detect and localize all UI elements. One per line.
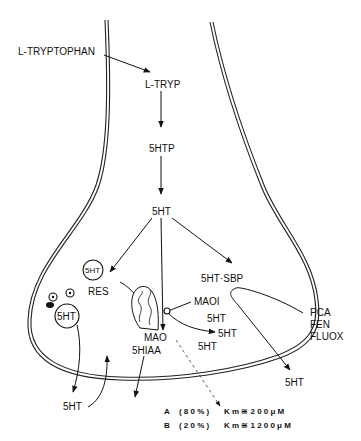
label-5ht-sbp: 5HT·SBP [201,273,244,284]
label-fluox: FLUOX [310,331,344,342]
label-fen: FEN [310,319,330,330]
label-l-tryptophan: L-TRYPTOPHAN [18,46,95,57]
label-vesicle-small: 5HT [85,266,100,275]
reuptake-arrow [88,356,107,407]
legend-key-b: B [164,421,172,430]
serotonin-synapse-diagram: L-TRYPTOPHAN L-TRYP 5HTP 5HT 5HT·SBP MAO… [0,0,361,441]
uptake-arrow [104,55,150,72]
mitochondrion-icon [132,286,159,330]
label-5ht-center: 5HT [152,206,171,217]
label-vesicle-large: 5HT [57,311,76,322]
label-5ht-released-left: 5HT [63,401,82,412]
legend-key-a: A [164,407,172,416]
5ht-to-res-arrow [110,218,152,272]
label-5htp: 5HTP [149,143,175,154]
label-5ht-c: 5HT [198,341,217,352]
legend-percent-a: (80%) [179,407,211,416]
maoi-binding-site-icon [164,308,170,314]
label-pca: PCA [310,307,331,318]
label-5hiaa: 5HIAA [132,345,161,356]
5ht-to-mao-arrow [161,218,163,330]
legend-km-a: Km≅200μM [224,407,286,416]
label-l-tryp: L-TRYP [145,79,181,90]
releaser-loop [231,288,303,370]
legend-percent-b: (20%) [179,421,211,430]
label-maoi: MAOI [194,296,220,307]
5hiaa-efflux-arrow [135,356,144,397]
legend-km-b: Km≅1200μM [224,421,293,430]
label-5ht-released-right: 5HT [285,377,304,388]
vesicle-release-arrow [73,325,80,392]
label-5ht-b: 5HT [218,328,237,339]
maoi-pointer [168,302,191,311]
5ht-to-sbp-arrow [172,218,232,263]
label-mao: MAO [144,332,167,343]
label-res: RES [88,286,109,297]
vesicle-filled-icon [46,302,54,308]
km-legend: A (80%) Km≅200μM B (20%) Km≅1200μM [164,407,293,430]
label-5ht-a: 5HT [207,313,226,324]
